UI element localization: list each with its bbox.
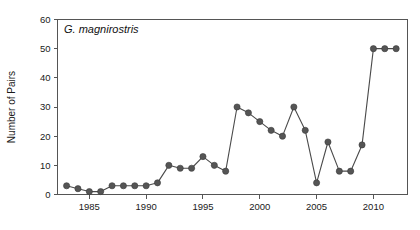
y-tick-label: 50	[40, 43, 51, 54]
y-tick-label: 10	[40, 160, 51, 171]
x-tick-label: 1995	[192, 201, 213, 212]
data-point-marker	[188, 165, 194, 171]
data-point-marker	[268, 127, 274, 133]
x-tick-label: 1985	[79, 201, 100, 212]
data-point-marker	[359, 142, 365, 148]
y-axis-title-label: Number of Pairs	[6, 71, 17, 143]
data-point-marker	[211, 162, 217, 168]
data-point-marker	[120, 183, 126, 189]
data-point-marker	[75, 186, 81, 192]
data-point-marker	[166, 162, 172, 168]
y-tick-label: 20	[40, 131, 51, 142]
data-point-marker	[279, 133, 285, 139]
data-point-marker	[313, 180, 319, 186]
x-tick-label: 1990	[136, 201, 157, 212]
y-axis-ticks: 0102030405060	[40, 14, 58, 200]
x-axis-ticks: 198519901995200020052010	[79, 195, 384, 212]
data-point-marker	[63, 183, 69, 189]
y-axis-title: Number of Pairs	[6, 71, 17, 143]
series-markers	[63, 46, 399, 195]
data-point-marker	[393, 46, 399, 52]
data-point-marker	[86, 188, 92, 194]
data-point-marker	[336, 168, 342, 174]
x-tick-label: 2000	[249, 201, 270, 212]
data-point-marker	[154, 180, 160, 186]
data-point-marker	[291, 104, 297, 110]
data-point-marker	[370, 46, 376, 52]
y-tick-label: 40	[40, 72, 51, 83]
y-tick-label: 60	[40, 14, 51, 25]
figure-container: Number of Pairs 0102030405060 1985199019…	[0, 0, 420, 230]
data-point-marker	[109, 183, 115, 189]
x-tick-label: 2010	[363, 201, 384, 212]
x-tick-label: 2005	[306, 201, 327, 212]
data-point-marker	[245, 110, 251, 116]
line-chart: Number of Pairs 0102030405060 1985199019…	[0, 0, 420, 230]
data-point-marker	[382, 46, 388, 52]
data-point-marker	[234, 104, 240, 110]
y-tick-label: 30	[40, 101, 51, 112]
data-point-marker	[177, 165, 183, 171]
data-point-marker	[257, 118, 263, 124]
y-tick-label: 0	[45, 189, 50, 200]
data-point-marker	[143, 183, 149, 189]
data-point-marker	[325, 139, 331, 145]
data-point-marker	[348, 168, 354, 174]
series-line-g-magnirostris	[67, 49, 397, 192]
data-point-marker	[302, 127, 308, 133]
data-point-marker	[132, 183, 138, 189]
data-point-marker	[200, 153, 206, 159]
species-annotation-label: G. magnirostris	[64, 23, 139, 35]
data-point-marker	[98, 188, 104, 194]
axes	[58, 19, 409, 195]
data-point-marker	[223, 168, 229, 174]
